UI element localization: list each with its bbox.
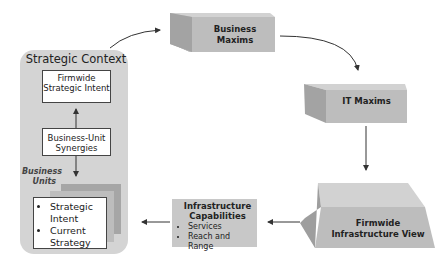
arrow-business-maxims-to-it-maxims (280, 36, 358, 70)
infrastructure-capabilities-list: Services Reach and Range (178, 222, 257, 252)
business-maxims-label: Business Maxims (195, 24, 275, 46)
firmwide-infrastructure-view-label: Firmwide Infrastructure View (328, 218, 428, 240)
infrastructure-capabilities-title: Infrastructure Capabilities (178, 201, 257, 221)
list-item: Services (188, 222, 257, 232)
list-item: Reach and Range (188, 232, 257, 252)
infrastructure-capabilities-box: Infrastructure Capabilities Services Rea… (172, 199, 257, 247)
it-maxims-label: IT Maxims (326, 96, 407, 107)
arrow-context-to-business-maxims (110, 30, 160, 48)
